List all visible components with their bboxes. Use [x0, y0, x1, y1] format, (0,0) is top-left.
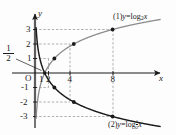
- curve-2-fn: log: [125, 120, 135, 129]
- curve-1-fn: log: [130, 12, 140, 21]
- curve-2-equation-label: (2)y=log12x: [108, 119, 142, 130]
- point-4-2: [72, 42, 76, 46]
- point-2-1: [53, 57, 57, 61]
- curve-1-prefix: (1): [113, 12, 122, 21]
- point-4-neg2: [72, 100, 76, 104]
- x-axis-label: x: [159, 74, 163, 83]
- point-2-neg1: [53, 86, 57, 90]
- half-numerator: 1: [2, 44, 15, 53]
- curve-2-log-base-half: [36, 28, 160, 127]
- curve-2-prefix: (2): [108, 120, 117, 129]
- half-denominator: 2: [2, 54, 15, 63]
- x-tick-2: 2: [46, 75, 51, 84]
- x-tick-4: 4: [68, 75, 73, 84]
- y-tick-neg3: -3: [20, 112, 28, 121]
- y-tick-1: 1: [27, 54, 32, 63]
- y-tick-neg2: -2: [20, 98, 28, 107]
- point-8-neg3: [111, 115, 115, 119]
- curve-2-arg: x: [138, 120, 142, 129]
- curve-1-equation-label: (1)y=log2x: [113, 13, 147, 21]
- x-tick-1: 1: [39, 75, 44, 84]
- curve-1-arg: x: [144, 12, 148, 21]
- curve-1-log-base-2: [36, 20, 160, 119]
- y-tick-3: 3: [26, 25, 31, 34]
- half-fraction-annotation: 1 2: [2, 44, 15, 63]
- y-axis-label: y: [38, 9, 42, 18]
- y-tick-2: 2: [26, 40, 31, 49]
- point-8-3: [111, 28, 115, 32]
- log-graph-figure: y x O 3 2 1 -1 -2 -3 1 2 4 8 1 2 (1)y=lo…: [0, 0, 176, 135]
- x-tick-8: 8: [111, 75, 116, 84]
- y-tick-neg1: -1: [21, 83, 29, 92]
